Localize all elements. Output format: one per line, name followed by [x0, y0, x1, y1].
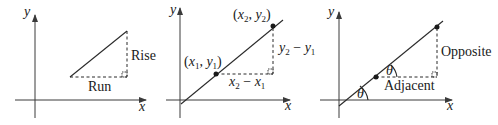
x-axis-label: x	[138, 99, 146, 114]
point2-label: (x2, y2)	[233, 7, 271, 24]
rise-label: Rise	[131, 48, 156, 63]
point-lower	[374, 75, 379, 80]
point-1	[214, 72, 219, 77]
x-axis-label: x	[446, 98, 454, 113]
panel-trig: y x θ θ Opposite Adjacent	[320, 4, 492, 118]
theta-label-adjacent: θ	[386, 63, 393, 78]
y-axis-label: y	[22, 4, 31, 19]
right-angle-marker	[122, 72, 127, 77]
x-axis-label: x	[284, 98, 292, 113]
panel-two-point: y x (x2, y2) y2 − y1 (x1, y1) x2 − x1	[166, 2, 315, 118]
point1-label: (x1, y1)	[184, 54, 222, 71]
adjacent-label: Adjacent	[384, 78, 435, 93]
vertical-difference-label: y2 − y1	[277, 40, 315, 57]
point-upper	[435, 25, 440, 30]
right-angle-marker	[432, 72, 437, 77]
panel-rise-run: y x Rise Run	[15, 4, 156, 118]
y-axis-label: y	[168, 2, 177, 17]
y-axis-label: y	[326, 4, 335, 19]
slope-diagram: y x Rise Run y x (x2, y2) y2 − y1 (x1, y…	[0, 0, 498, 125]
horizontal-difference-label: x2 − x1	[228, 74, 265, 91]
hypotenuse	[70, 31, 127, 77]
right-angle-marker	[268, 69, 273, 74]
theta-label-axis: θ	[357, 86, 364, 101]
run-label: Run	[88, 79, 111, 94]
point-2	[271, 24, 276, 29]
opposite-label: Opposite	[441, 44, 492, 59]
